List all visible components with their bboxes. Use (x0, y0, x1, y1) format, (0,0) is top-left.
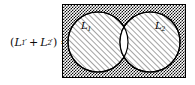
venn-figure: (L1′+L2′)= (0, 0, 195, 85)
circle-label-l2: L2 (155, 21, 165, 33)
term1-prime: ′ (25, 38, 27, 48)
plus-operator: + (29, 36, 38, 49)
equation-label: (L1′+L2′)= (10, 0, 62, 85)
close-paren: ) (53, 36, 57, 49)
universe-rectangle (62, 4, 186, 78)
circle-l2-subscript: 2 (161, 25, 165, 33)
circle-label-l1: L1 (81, 21, 91, 33)
circle-l1-subscript: 1 (87, 25, 91, 33)
